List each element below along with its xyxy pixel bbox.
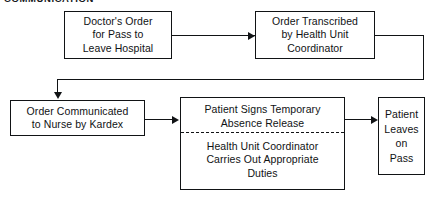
connector-doctors-order-to-transcribed-arrowhead	[248, 32, 255, 40]
node-huc-duties-line-3: Duties	[247, 167, 277, 180]
compartment-huc-duties: Health Unit Coordinator Carries Out Appr…	[181, 133, 344, 189]
node-patient-leaves-on-pass: Patient Leaves on Pass	[378, 97, 425, 175]
connector-transcribed-return-top-horizontal	[375, 35, 424, 36]
node-patient-signs-and-duties: Patient Signs Temporary Absence Release …	[180, 97, 345, 190]
node-patient-leaves-line-2: Leaves	[384, 122, 418, 137]
node-doctors-order-line-1: Doctor's Order	[83, 15, 152, 28]
node-doctors-order-line-3: Leave Hospital	[83, 42, 154, 55]
node-order-transcribed-line-2: by Health Unit	[281, 28, 348, 41]
node-order-communicated-line-2: to Nurse by Kardex	[32, 118, 123, 131]
node-order-communicated-line-1: Order Communicated	[27, 105, 129, 118]
connector-communicated-to-patient-signs-arrowhead	[172, 116, 179, 124]
flowchart-canvas: COMMUNICATION Doctor's Order for Pass to…	[0, 0, 439, 202]
node-huc-duties-line-1: Health Unit Coordinator	[207, 140, 319, 153]
connector-transcribed-to-communicated-arrowhead	[54, 92, 62, 99]
node-huc-duties-line-2: Carries Out Appropriate	[206, 153, 318, 166]
node-patient-leaves-line-4: Pass	[390, 151, 414, 166]
node-patient-leaves-line-1: Patient	[385, 107, 418, 122]
node-order-communicated: Order Communicated to Nurse by Kardex	[10, 100, 145, 136]
connector-patient-signs-to-leaves-line	[345, 119, 373, 120]
node-order-transcribed-line-3: Coordinator	[287, 42, 343, 55]
connector-transcribed-return-right-vertical	[423, 35, 424, 80]
node-doctors-order-line-2: for Pass to	[92, 28, 143, 41]
node-order-transcribed-line-1: Order Transcribed	[272, 15, 358, 28]
node-order-transcribed: Order Transcribed by Health Unit Coordin…	[255, 11, 375, 59]
node-patient-leaves-line-3: on	[396, 136, 408, 151]
connector-transcribed-return-bottom-horizontal	[57, 79, 424, 80]
connector-communicated-to-patient-signs-line	[145, 119, 175, 120]
connector-doctors-order-to-transcribed-line	[172, 35, 255, 36]
node-doctors-order: Doctor's Order for Pass to Leave Hospita…	[64, 11, 172, 59]
node-patient-signs-line-1: Patient Signs Temporary	[204, 103, 320, 116]
clipped-heading-text: COMMUNICATION	[4, 0, 184, 5]
connector-patient-signs-to-leaves-arrowhead	[371, 116, 378, 124]
compartment-patient-signs: Patient Signs Temporary Absence Release	[181, 98, 344, 132]
node-patient-signs-line-2: Absence Release	[221, 117, 305, 130]
